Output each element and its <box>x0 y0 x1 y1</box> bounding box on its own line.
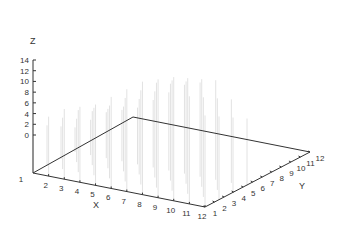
y-axis-line <box>205 152 310 207</box>
y-tick-label: 11 <box>306 159 315 168</box>
y-tick-mark <box>270 171 272 172</box>
y-tick-mark <box>222 196 224 197</box>
z-tick-label: 10 <box>20 77 29 86</box>
3d-stem-chart: 02468101214 123456789101112 123456789101… <box>0 0 343 229</box>
z-axis-title: Z <box>30 36 36 46</box>
y-tick-label: 1 <box>213 209 218 218</box>
y-tick-mark <box>260 176 262 177</box>
y-tick-label: 12 <box>316 154 325 163</box>
y-axis-title: Y <box>299 181 305 191</box>
y-tick-mark <box>279 166 281 167</box>
x-tick-label: 9 <box>153 203 158 212</box>
x-tick-label: 4 <box>75 187 80 196</box>
back-edge-right <box>133 117 310 152</box>
x-axis-title: X <box>93 200 99 210</box>
x-tick-label: 2 <box>43 181 48 190</box>
y-tick-label: 2 <box>222 204 227 213</box>
y-tick-label: 8 <box>280 174 285 183</box>
z-axis-ticks: 02468101214 <box>20 56 36 140</box>
z-tick-label: 2 <box>25 120 30 129</box>
x-axis-ticks: 123456789101112 <box>19 174 207 221</box>
z-tick-label: 12 <box>20 67 29 76</box>
x-tick-label: 6 <box>106 193 111 202</box>
z-tick-label: 0 <box>25 131 30 140</box>
y-tick-mark <box>241 186 243 187</box>
z-tick-label: 6 <box>25 99 30 108</box>
z-tick-label: 8 <box>25 88 30 97</box>
y-tick-label: 7 <box>270 179 275 188</box>
x-tick-label: 5 <box>90 190 95 199</box>
x-tick-label: 7 <box>122 197 127 206</box>
x-tick-label: 10 <box>166 206 175 215</box>
y-tick-mark <box>289 161 291 162</box>
x-tick-label: 3 <box>59 184 64 193</box>
z-tick-label: 4 <box>25 110 30 119</box>
y-tick-mark <box>251 181 253 182</box>
x-tick-label: 11 <box>182 209 191 218</box>
y-axis-ticks: 123456789101112 <box>203 151 325 218</box>
y-tick-label: 6 <box>261 184 266 193</box>
x-tick-label: 8 <box>137 200 142 209</box>
y-tick-label: 4 <box>241 194 246 203</box>
x-tick-label: 1 <box>19 175 24 184</box>
y-tick-label: 3 <box>232 199 237 208</box>
y-tick-label: 10 <box>296 164 305 173</box>
x-tick-label: 12 <box>198 212 207 221</box>
back-edge-left <box>33 117 133 173</box>
y-tick-mark <box>213 201 215 202</box>
data-stems <box>33 77 247 207</box>
y-tick-label: 5 <box>251 189 256 198</box>
z-tick-label: 14 <box>20 56 29 65</box>
y-tick-label: 9 <box>289 169 294 178</box>
y-tick-mark <box>298 156 300 157</box>
